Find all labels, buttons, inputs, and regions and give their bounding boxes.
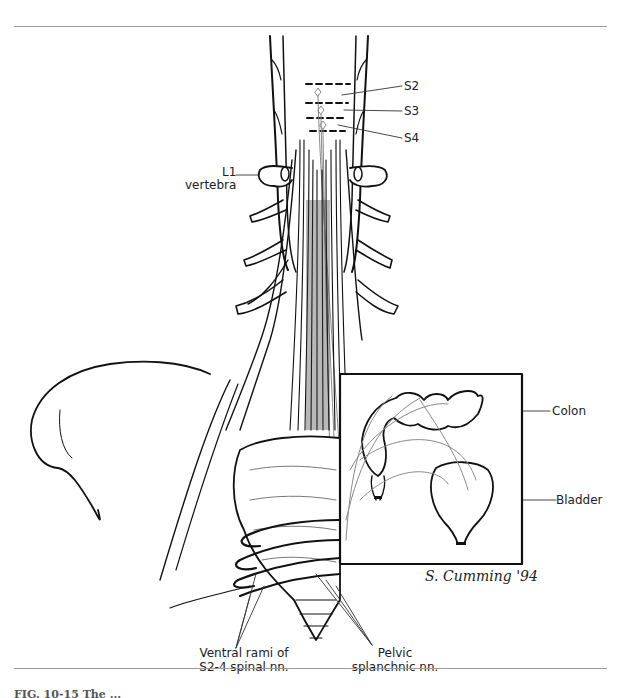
sacrum <box>234 437 340 641</box>
bottom-rule <box>14 668 607 669</box>
label-ventral-rami: Ventral rami of S2-4 spinal nn. <box>196 646 292 674</box>
artist-signature: S. Cumming '94 <box>425 568 538 584</box>
label-colon: Colon <box>552 404 586 418</box>
label-ventral-rami-line1: Ventral rami of <box>196 646 292 660</box>
ilium <box>31 362 210 520</box>
label-ventral-rami-line2: S2-4 spinal nn. <box>196 660 292 674</box>
label-pelvic-line1: Pelvic <box>350 646 440 660</box>
vertebral-canal-right <box>344 36 368 272</box>
label-l1: L1 <box>222 165 236 179</box>
label-s3: S3 <box>404 104 419 118</box>
label-bladder: Bladder <box>556 493 602 507</box>
label-vertebra: vertebra <box>185 178 236 192</box>
anatomical-illustration <box>0 0 621 698</box>
inset-box <box>340 374 522 564</box>
figure-caption: FIG. 10-15 The ... <box>14 688 121 698</box>
label-s4: S4 <box>404 131 419 145</box>
label-s2: S2 <box>404 79 419 93</box>
spinal-segment-markers <box>306 84 350 131</box>
label-pelvic-splanchnic: Pelvic splanchnic nn. <box>350 646 440 674</box>
label-pelvic-line2: splanchnic nn. <box>350 660 440 674</box>
